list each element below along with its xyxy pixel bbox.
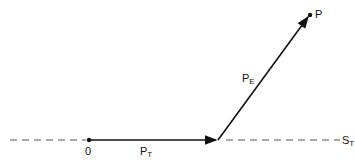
vector-diagram [0, 0, 355, 160]
label-origin: 0 [85, 145, 91, 157]
label-st: ST [342, 134, 354, 148]
label-pe: PE [242, 72, 255, 86]
label-st-sub: T [349, 139, 354, 148]
label-pt-sub: T [147, 150, 152, 159]
vector-pe [218, 17, 308, 140]
label-pt: PT [140, 145, 152, 159]
label-pe-sub: E [249, 77, 254, 86]
label-point-p: P [315, 8, 322, 20]
point-p-dot [308, 13, 312, 17]
